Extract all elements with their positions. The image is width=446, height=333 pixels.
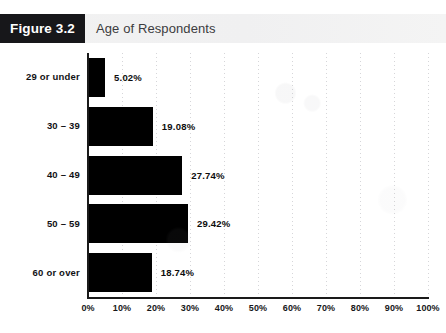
bar-row: 27.74% xyxy=(88,156,225,195)
bar-row: 18.74% xyxy=(88,253,194,292)
bar xyxy=(88,58,105,97)
x-tick-label: 10% xyxy=(113,303,131,313)
category-label: 50 – 59 xyxy=(2,218,80,229)
bar xyxy=(88,107,153,146)
gridline xyxy=(394,53,395,297)
category-label: 30 – 39 xyxy=(2,120,80,131)
bar-value-label: 5.02% xyxy=(114,72,142,83)
bar-chart: 29 or under30 – 3940 – 4950 – 5960 or ov… xyxy=(0,53,446,333)
figure-number-badge: Figure 3.2 xyxy=(0,14,85,43)
y-axis-line xyxy=(87,53,89,298)
x-tick-label: 100% xyxy=(416,303,439,313)
x-tick-label: 30% xyxy=(181,303,199,313)
bar xyxy=(88,156,182,195)
figure-title: Age of Respondents xyxy=(85,14,446,43)
bar-row: 5.02% xyxy=(88,58,142,97)
category-axis-labels: 29 or under30 – 3940 – 4950 – 5960 or ov… xyxy=(0,53,80,297)
figure-header: Figure 3.2 Age of Respondents xyxy=(0,14,446,43)
gridline xyxy=(258,53,259,297)
category-label: 29 or under xyxy=(2,71,80,82)
x-tick-label: 80% xyxy=(351,303,369,313)
gridline xyxy=(360,53,361,297)
x-tick-label: 20% xyxy=(147,303,165,313)
x-axis-line xyxy=(87,297,429,299)
x-tick-label: 60% xyxy=(283,303,301,313)
x-axis-tick-labels: 0%10%20%30%40%50%60%70%80%90%100% xyxy=(88,303,428,319)
bar-value-label: 19.08% xyxy=(162,121,195,132)
bar-value-label: 27.74% xyxy=(191,170,224,181)
x-tick-label: 70% xyxy=(317,303,335,313)
bar-row: 19.08% xyxy=(88,107,195,146)
x-tick-label: 0% xyxy=(81,303,94,313)
category-label: 60 or over xyxy=(2,267,80,278)
bar xyxy=(88,204,188,243)
bar-value-label: 18.74% xyxy=(161,267,194,278)
bar xyxy=(88,253,152,292)
bar-value-label: 29.42% xyxy=(197,218,230,229)
bar-row: 29.42% xyxy=(88,204,230,243)
x-tick-label: 50% xyxy=(249,303,267,313)
x-tick-label: 40% xyxy=(215,303,233,313)
plot-area: 5.02%19.08%27.74%29.42%18.74% xyxy=(88,53,428,297)
x-tick-label: 90% xyxy=(385,303,403,313)
gridline xyxy=(428,53,429,297)
category-label: 40 – 49 xyxy=(2,169,80,180)
gridline xyxy=(292,53,293,297)
gridline xyxy=(326,53,327,297)
